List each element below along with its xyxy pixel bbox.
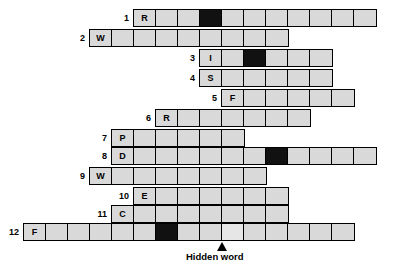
crossword-cell[interactable]: F — [222, 90, 244, 106]
crossword-cell[interactable] — [222, 188, 244, 204]
crossword-cell[interactable] — [310, 50, 332, 66]
crossword-cell[interactable] — [310, 148, 332, 164]
crossword-cell[interactable]: C — [112, 206, 134, 222]
crossword-cell[interactable] — [112, 224, 134, 240]
crossword-cell[interactable] — [288, 224, 310, 240]
crossword-cell[interactable] — [310, 70, 332, 86]
crossword-cell[interactable] — [134, 30, 156, 46]
crossword-cell[interactable] — [244, 70, 266, 86]
crossword-row-cells: S — [199, 69, 333, 87]
crossword-cell[interactable] — [244, 30, 266, 46]
crossword-cell[interactable] — [244, 224, 266, 240]
crossword-cell[interactable] — [178, 110, 200, 126]
crossword-cell[interactable] — [156, 148, 178, 164]
crossword-cell[interactable] — [46, 224, 68, 240]
crossword-cell[interactable]: W — [90, 168, 112, 184]
crossword-cell[interactable] — [134, 130, 156, 146]
crossword-cell[interactable]: E — [134, 188, 156, 204]
crossword-cell[interactable] — [222, 206, 244, 222]
crossword-cell[interactable] — [156, 10, 178, 26]
crossword-cell[interactable] — [222, 148, 244, 164]
crossword-cell[interactable] — [266, 206, 288, 222]
crossword-cell[interactable] — [112, 168, 134, 184]
crossword-cell[interactable] — [178, 130, 200, 146]
crossword-cell[interactable] — [156, 168, 178, 184]
crossword-cell[interactable] — [288, 10, 310, 26]
crossword-cell[interactable] — [178, 148, 200, 164]
crossword-cell[interactable] — [156, 206, 178, 222]
crossword-cell[interactable] — [134, 168, 156, 184]
crossword-cell[interactable] — [244, 90, 266, 106]
crossword-cell[interactable] — [288, 110, 310, 126]
crossword-cell[interactable] — [244, 148, 266, 164]
crossword-cell[interactable] — [332, 224, 354, 240]
crossword-cell[interactable] — [266, 50, 288, 66]
crossword-cell[interactable] — [266, 188, 288, 204]
crossword-cell[interactable] — [266, 10, 288, 26]
crossword-cell[interactable] — [112, 30, 134, 46]
crossword-row-cells: I — [199, 49, 333, 67]
crossword-cell[interactable]: R — [156, 110, 178, 126]
crossword-cell[interactable] — [244, 168, 266, 184]
crossword-cell[interactable] — [134, 206, 156, 222]
crossword-cell[interactable] — [288, 70, 310, 86]
crossword-cell[interactable] — [266, 110, 288, 126]
crossword-cell[interactable]: D — [112, 148, 134, 164]
crossword-cell[interactable]: R — [134, 10, 156, 26]
crossword-cell[interactable] — [310, 10, 332, 26]
crossword-cell[interactable]: W — [90, 30, 112, 46]
crossword-cell[interactable] — [200, 148, 222, 164]
crossword-cell[interactable] — [178, 10, 200, 26]
crossword-cell[interactable] — [222, 30, 244, 46]
crossword-cell[interactable] — [156, 30, 178, 46]
crossword-cell[interactable] — [222, 50, 244, 66]
crossword-cell[interactable] — [332, 148, 354, 164]
crossword-cell[interactable] — [178, 188, 200, 204]
crossword-cell[interactable] — [266, 90, 288, 106]
crossword-cell[interactable] — [200, 168, 222, 184]
crossword-cell[interactable] — [200, 188, 222, 204]
crossword-cell[interactable] — [178, 206, 200, 222]
crossword-cell[interactable] — [244, 206, 266, 222]
crossword-cell[interactable] — [288, 148, 310, 164]
crossword-cell[interactable] — [222, 224, 244, 240]
crossword-cell[interactable]: S — [200, 70, 222, 86]
crossword-cell[interactable] — [354, 148, 376, 164]
crossword-cell[interactable] — [178, 168, 200, 184]
crossword-cell[interactable]: F — [24, 224, 46, 240]
crossword-cell[interactable] — [156, 188, 178, 204]
crossword-cell[interactable] — [354, 10, 376, 26]
crossword-cell[interactable] — [288, 90, 310, 106]
crossword-cell[interactable] — [222, 70, 244, 86]
crossword-row-cells: P — [111, 129, 245, 147]
crossword-cell[interactable] — [200, 130, 222, 146]
crossword-cell[interactable] — [178, 224, 200, 240]
crossword-cell[interactable] — [90, 224, 112, 240]
crossword-cell[interactable] — [134, 224, 156, 240]
crossword-cell[interactable] — [222, 110, 244, 126]
crossword-cell[interactable] — [200, 110, 222, 126]
crossword-cell[interactable] — [266, 224, 288, 240]
crossword-cell[interactable] — [266, 30, 288, 46]
crossword-cell[interactable] — [200, 224, 222, 240]
crossword-cell[interactable] — [68, 224, 90, 240]
crossword-cell[interactable]: P — [112, 130, 134, 146]
crossword-cell[interactable] — [222, 168, 244, 184]
crossword-cell[interactable] — [178, 30, 200, 46]
crossword-cell[interactable] — [244, 10, 266, 26]
crossword-cell[interactable] — [310, 224, 332, 240]
crossword-cell[interactable] — [200, 30, 222, 46]
crossword-cell[interactable] — [332, 10, 354, 26]
crossword-cell[interactable] — [222, 10, 244, 26]
crossword-cell[interactable] — [288, 50, 310, 66]
crossword-cell[interactable] — [310, 90, 332, 106]
crossword-cell[interactable] — [244, 188, 266, 204]
crossword-cell[interactable] — [266, 70, 288, 86]
crossword-cell[interactable] — [332, 90, 354, 106]
crossword-cell[interactable]: I — [200, 50, 222, 66]
crossword-cell[interactable] — [244, 110, 266, 126]
crossword-cell[interactable] — [200, 206, 222, 222]
crossword-cell[interactable] — [222, 130, 244, 146]
crossword-cell[interactable] — [134, 148, 156, 164]
crossword-cell[interactable] — [156, 130, 178, 146]
